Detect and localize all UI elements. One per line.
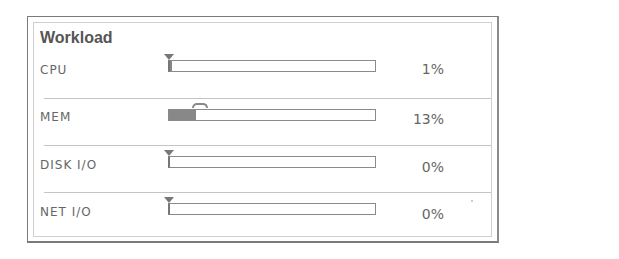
usage-percent: 0%: [384, 159, 444, 175]
usage-percent: 13%: [384, 111, 444, 127]
row-label: CPU: [40, 63, 67, 77]
row-disk-io: DISK I/O 0%: [34, 145, 491, 191]
panel-title: Workload: [40, 29, 113, 47]
row-label: NET I/O: [40, 205, 92, 219]
usage-percent: 1%: [384, 61, 444, 77]
workload-panel-inner: Workload CPU 1% MEM 13% DISK I/O: [33, 22, 492, 237]
row-net-io: NET I/O 0%: [34, 192, 491, 238]
usage-bar: [168, 203, 376, 215]
workload-panel: Workload CPU 1% MEM 13% DISK I/O: [27, 16, 499, 243]
row-cpu: CPU 1%: [34, 51, 491, 97]
row-label: MEM: [40, 110, 71, 124]
usage-percent: 0%: [384, 206, 444, 222]
row-mem: MEM 13%: [34, 98, 491, 144]
usage-bar: [168, 156, 376, 168]
usage-bar-fill: [169, 110, 196, 120]
artifact-dot: [471, 200, 473, 202]
usage-bar-fill: [170, 61, 172, 71]
peak-marker-icon: [192, 103, 208, 108]
usage-bar: [168, 109, 376, 121]
row-label: DISK I/O: [40, 158, 97, 172]
usage-bar: [168, 60, 376, 72]
